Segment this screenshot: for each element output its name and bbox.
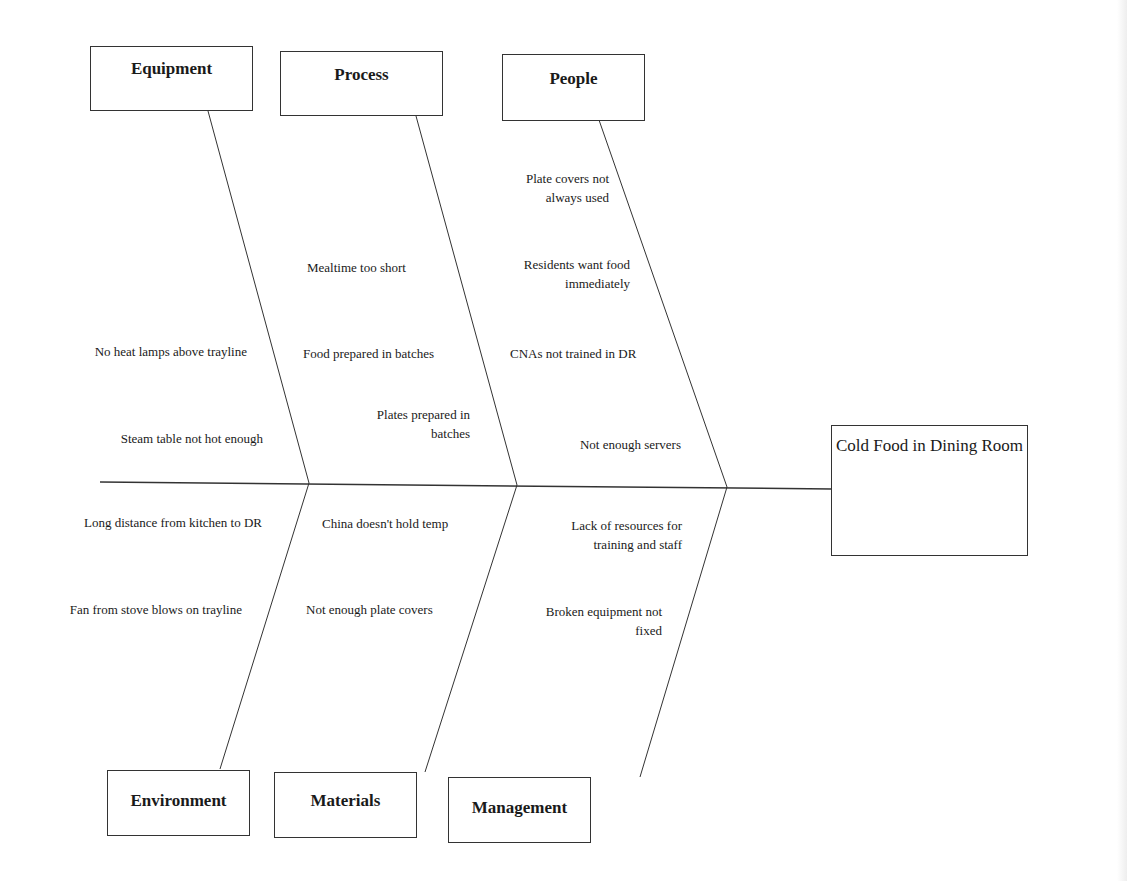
cause-people-4: Not enough servers	[580, 435, 681, 454]
cause-process-1: Mealtime too short	[307, 258, 406, 277]
cause-people-1: Plate covers not always used	[526, 169, 609, 207]
cause-people-2: Residents want food immediately	[524, 255, 630, 293]
category-label: Management	[449, 798, 590, 818]
category-process: Process	[280, 51, 443, 116]
category-environment: Environment	[107, 770, 250, 836]
category-label: Materials	[275, 791, 416, 811]
bone-people	[599, 120, 727, 487]
cause-environment-2: Fan from stove blows on trayline	[70, 600, 242, 619]
category-equipment: Equipment	[90, 46, 253, 111]
cause-materials-2: Not enough plate covers	[306, 600, 433, 619]
category-label: Process	[281, 65, 442, 85]
cause-equipment-1: No heat lamps above trayline	[95, 342, 247, 361]
category-label: Equipment	[91, 59, 252, 79]
cause-equipment-2: Steam table not hot enough	[121, 429, 263, 448]
category-materials: Materials	[274, 772, 417, 838]
scan-edge-shading	[1117, 0, 1127, 881]
cause-process-3: Plates prepared in batches	[377, 405, 470, 443]
category-people: People	[502, 54, 645, 121]
cause-environment-1: Long distance from kitchen to DR	[84, 513, 262, 532]
category-label: People	[503, 69, 644, 89]
category-management: Management	[448, 777, 591, 843]
effect-box: Cold Food in Dining Room	[831, 425, 1028, 556]
bone-equipment	[208, 111, 309, 483]
cause-process-2: Food prepared in batches	[303, 344, 434, 363]
cause-management-1: Lack of resources for training and staff	[571, 516, 682, 554]
category-label: Environment	[108, 791, 249, 811]
spine	[100, 482, 832, 489]
cause-materials-1: China doesn't hold temp	[322, 514, 448, 533]
effect-label: Cold Food in Dining Room	[832, 436, 1027, 456]
cause-management-2: Broken equipment not fixed	[546, 602, 662, 640]
cause-people-3: CNAs not trained in DR	[510, 344, 636, 363]
